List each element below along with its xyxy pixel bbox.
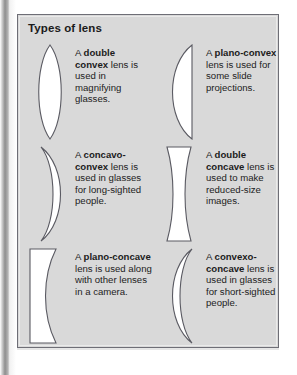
types-of-lens-figure: Types of lens A double convex lens is us… [17,14,279,348]
plate-bottom-shadow [17,348,279,350]
figure-title: Types of lens [28,22,102,34]
caption-term: plano-concave [84,251,151,262]
concavo-convex-lens-icon [27,145,73,243]
caption-lead: A [206,47,215,58]
lens-caption: A convexo-concave lens is used in glasse… [206,251,280,309]
lens-item-plano-convex: A plano-convex lens is used for some sli… [149,41,280,143]
caption-lead: A [206,251,215,262]
lens-caption: A plano-concave lens is used along with … [75,251,155,297]
plano-concave-lens-icon [24,247,70,345]
lens-caption: A plano-convex lens is used for some sli… [206,47,280,93]
lens-caption: A double convex lens is used in magnifyi… [75,47,149,105]
scanned-page: Types of lens A double convex lens is us… [0,0,297,375]
lens-item-concavo-convex: A concavo-convex lens is used in glasses… [18,143,149,245]
lens-item-double-concave: A double concave lens is used to make re… [149,143,280,245]
caption-tail: lens is used for some slide projections. [206,59,271,93]
convexo-concave-lens-icon [158,247,204,345]
caption-term: plano-convex [215,47,277,58]
caption-tail: lens is used along with other lenses in … [75,263,152,297]
caption-lead: A [75,47,84,58]
caption-lead: A [75,251,84,262]
lens-caption: A concavo-convex lens is used in glasses… [75,149,149,207]
scan-gutter-shadow [0,0,10,375]
caption-lead: A [75,149,84,160]
lens-item-convexo-concave: A convexo-concave lens is used in glasse… [149,245,280,347]
caption-lead: A [206,149,215,160]
lens-item-plano-concave: A plano-concave lens is used along with … [18,245,149,347]
plano-convex-lens-icon [158,43,204,141]
double-convex-lens-icon [27,43,73,141]
scan-gutter-falloff [10,0,16,375]
lens-item-double-convex: A double convex lens is used in magnifyi… [18,41,149,143]
double-concave-lens-icon [158,145,204,243]
lens-grid: A double convex lens is used in magnifyi… [18,41,280,347]
lens-caption: A double concave lens is used to make re… [206,149,280,207]
